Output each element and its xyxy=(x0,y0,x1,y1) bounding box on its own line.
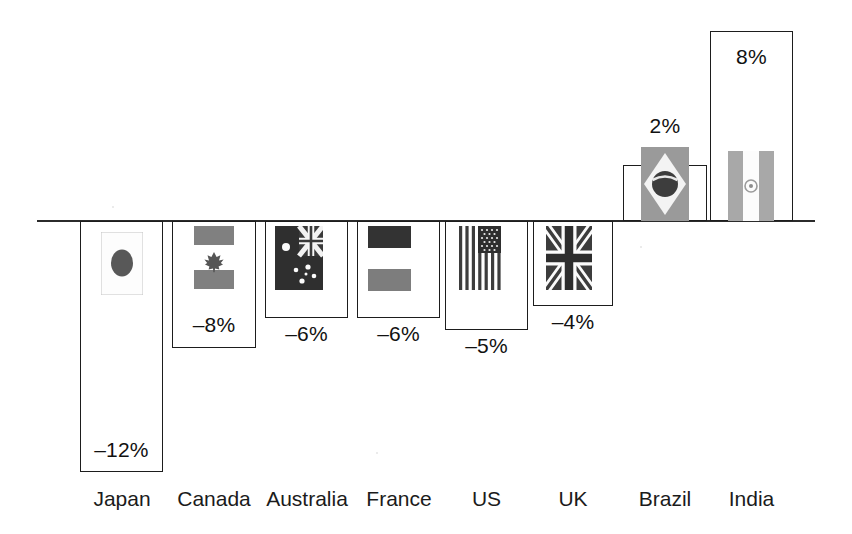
value-label-brazil: 2% xyxy=(623,114,707,138)
scan-speckle xyxy=(376,452,378,454)
category-label-japan: Japan xyxy=(76,487,168,511)
flag-brazil-icon xyxy=(641,147,689,221)
flag-canada-icon xyxy=(194,226,234,289)
category-label-australia: Australia xyxy=(255,487,359,511)
scan-speckle xyxy=(112,206,114,208)
chart-canvas: –12% –8% xyxy=(0,0,852,534)
category-label-india: India xyxy=(710,487,793,511)
value-label-india: 8% xyxy=(710,45,793,69)
category-label-brazil: Brazil xyxy=(621,487,709,511)
value-label-japan: –12% xyxy=(80,438,163,462)
flag-japan-icon xyxy=(101,232,143,295)
flag-united-kingdom-icon xyxy=(546,226,592,290)
flag-australia-icon xyxy=(275,226,323,290)
scan-speckle xyxy=(640,246,642,248)
category-label-us: US xyxy=(445,487,528,511)
value-label-us: –5% xyxy=(445,334,528,358)
flag-india-icon xyxy=(728,151,774,221)
value-label-canada: –8% xyxy=(172,313,256,337)
value-label-france: –6% xyxy=(357,322,440,346)
value-label-uk: –4% xyxy=(533,310,613,334)
flag-france-icon xyxy=(368,226,411,291)
value-label-australia: –6% xyxy=(265,322,348,346)
category-label-uk: UK xyxy=(533,487,613,511)
category-label-canada: Canada xyxy=(166,487,262,511)
flag-united-states-icon xyxy=(459,226,501,290)
category-label-france: France xyxy=(354,487,444,511)
